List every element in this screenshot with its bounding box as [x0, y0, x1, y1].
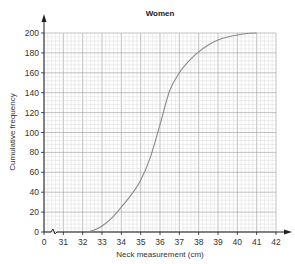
x-tick-label: 37 [175, 237, 185, 247]
x-tick-label: 40 [233, 237, 243, 247]
chart-title: Women [146, 9, 175, 18]
x-tick-label: 33 [97, 237, 107, 247]
x-tick-label: 32 [78, 237, 88, 247]
x-tick-label: 34 [117, 237, 127, 247]
x-tick-label: 42 [271, 237, 281, 247]
y-tick-label: 200 [25, 28, 39, 38]
y-tick-label: 120 [25, 108, 39, 118]
x-tick-label: 41 [252, 237, 262, 247]
y-tick-label: 100 [25, 128, 39, 138]
y-tick-label: 20 [30, 207, 40, 217]
axes [42, 14, 293, 235]
x-tick-label: 31 [59, 237, 69, 247]
y-tick-label: 0 [34, 227, 39, 237]
x-tick-label: 39 [213, 237, 223, 247]
y-tick-label: 60 [30, 167, 40, 177]
y-tick-label: 80 [30, 147, 40, 157]
grid [44, 33, 276, 232]
x-tick-label: 0 [42, 237, 47, 247]
y-tick-label: 160 [25, 68, 39, 78]
y-tick-label: 40 [30, 187, 40, 197]
x-tick-label: 36 [155, 237, 165, 247]
y-tick-labels: 020406080100120140160180200 [25, 28, 44, 237]
x-tick-label: 38 [194, 237, 204, 247]
cumulative-frequency-chart: Women 0313233343536373839404142 02040608… [0, 0, 295, 264]
y-tick-label: 180 [25, 48, 39, 58]
x-tick-label: 35 [136, 237, 146, 247]
x-axis-label: Neck measurement (cm) [116, 250, 204, 259]
y-axis-label: Cumulative frequency [8, 93, 17, 170]
x-tick-labels: 0313233343536373839404142 [42, 232, 281, 247]
y-tick-label: 140 [25, 88, 39, 98]
